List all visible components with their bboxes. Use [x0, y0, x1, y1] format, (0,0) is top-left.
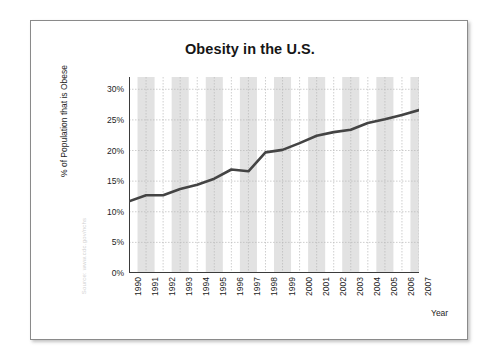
x-tick-label: 1998 [269, 277, 279, 296]
x-tick-label: 2003 [355, 277, 365, 296]
plot-band [274, 77, 291, 273]
x-tick-label: 2001 [321, 277, 331, 296]
plot-band [240, 77, 257, 273]
x-tick-label: 1999 [287, 277, 297, 296]
plot-wrap: 0%5%10%15%20%25%30% 19901991199219931994… [31, 21, 469, 341]
plot-area: 0%5%10%15%20%25%30% 19901991199219931994… [129, 77, 419, 273]
y-tick-label: 30% [107, 84, 124, 94]
plot-band [308, 77, 325, 273]
x-tick-label: 1996 [235, 277, 245, 296]
x-tick-label: 1994 [201, 277, 211, 296]
y-tick-label: 15% [107, 176, 124, 186]
plot-band [138, 77, 155, 273]
x-tick-label: 1993 [184, 277, 194, 296]
x-tick-label: 2000 [304, 277, 314, 296]
x-tick-label: 1992 [167, 277, 177, 296]
line-chart-canvas [129, 77, 419, 273]
x-tick-label: 2004 [372, 277, 382, 296]
plot-band [172, 77, 189, 273]
y-tick-label: 0% [112, 268, 124, 278]
x-tick-label: 2005 [389, 277, 399, 296]
x-tick-label: 1990 [133, 277, 143, 296]
y-tick-label: 25% [107, 115, 124, 125]
plot-band [376, 77, 393, 273]
x-tick-label: 1995 [218, 277, 228, 296]
x-tick-label: 1997 [252, 277, 262, 296]
plot-band [342, 77, 359, 273]
plot-band [410, 77, 419, 273]
x-tick-label: 2007 [423, 277, 433, 296]
figure-frame: Source: www.cdc.gov/nchs Obesity in the … [30, 20, 468, 340]
x-tick-label: 2002 [338, 277, 348, 296]
x-axis-title: Year [431, 308, 448, 318]
y-tick-label: 10% [107, 207, 124, 217]
x-tick-label: 1991 [150, 277, 160, 296]
y-tick-label: 20% [107, 146, 124, 156]
x-tick-label: 2006 [406, 277, 416, 296]
y-tick-label: 5% [112, 237, 124, 247]
